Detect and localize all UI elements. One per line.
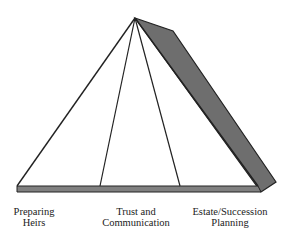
pillar-label-line: Planning — [184, 217, 276, 228]
pillar-label-line: Estate/Succession — [184, 206, 276, 217]
pillar-label-line: Communication — [96, 217, 176, 228]
pyramid-right-edge — [135, 18, 258, 186]
pillar-label-preparing-heirs: Preparing Heirs — [4, 206, 64, 228]
pyramid-diagram: Preparing Heirs Trust and Communication … — [0, 0, 290, 241]
pyramid-base — [17, 186, 261, 192]
pyramid-graphic — [0, 0, 290, 241]
pillar-label-trust-communication: Trust and Communication — [96, 206, 176, 228]
pillar-label-estate-succession: Estate/Succession Planning — [184, 206, 276, 228]
pillar-label-line: Heirs — [4, 217, 64, 228]
pyramid-side-face — [135, 18, 276, 192]
pillar-label-line: Trust and — [96, 206, 176, 217]
pillar-label-line: Preparing — [4, 206, 64, 217]
